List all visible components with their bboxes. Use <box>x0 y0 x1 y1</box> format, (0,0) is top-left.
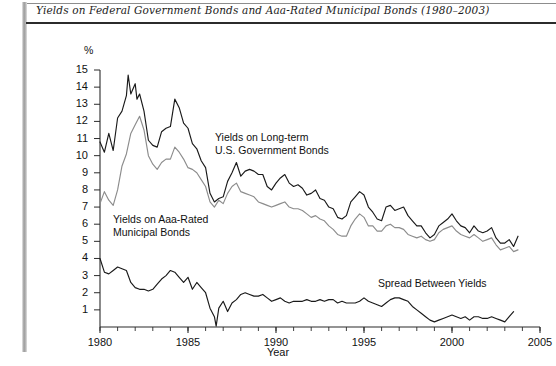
chart-axes <box>94 70 540 333</box>
y-axis-tick-label: 9 <box>66 166 88 178</box>
x-axis-minor-ticks <box>100 327 540 331</box>
y-axis-tick-label: 11 <box>66 132 88 144</box>
y-axis-tick-label: 13 <box>66 97 88 109</box>
annotation-spread-between-yields: Spread Between Yields <box>378 277 487 290</box>
y-axis-tick-label: 3 <box>66 269 88 281</box>
y-axis-tick-label: 5 <box>66 234 88 246</box>
y-axis-tick-label: 14 <box>66 80 88 92</box>
y-axis-tick-label: 2 <box>66 286 88 298</box>
y-axis-tick-label: 1 <box>66 303 88 315</box>
y-axis-tick-label: 6 <box>66 217 88 229</box>
y-axis-tick-label: 8 <box>66 183 88 195</box>
annotation-municipal-yields: Yields on Aaa-Rated Municipal Bonds <box>113 213 208 239</box>
y-axis-tick-label: 7 <box>66 200 88 212</box>
y-axis-tick-label: 4 <box>66 251 88 263</box>
x-axis-title: Year <box>0 346 556 358</box>
y-axis-tick-label: 10 <box>66 149 88 161</box>
chart-plot-area: % 123456789101112131415 1980198519901995… <box>0 0 556 366</box>
series-line <box>100 258 514 326</box>
y-axis-tick-label: 15 <box>66 63 88 75</box>
y-axis-tick-label: 12 <box>66 114 88 126</box>
y-axis-unit-label: % <box>84 44 93 56</box>
x-axis-major-ticks <box>100 327 540 333</box>
annotation-treasury-yields: Yields on Long-term U.S. Government Bond… <box>215 131 329 157</box>
y-axis-ticks <box>94 70 100 310</box>
